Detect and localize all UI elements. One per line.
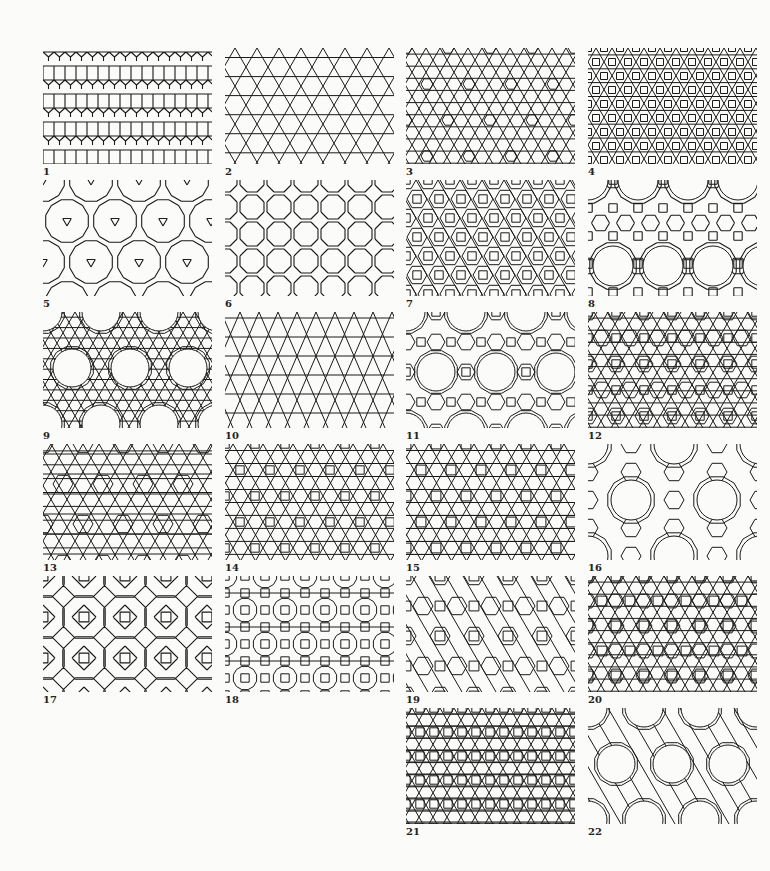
- dodecagon-hole: [82, 405, 120, 428]
- tiling-pattern-rhombitrihexagonal-variant: [43, 444, 212, 560]
- tiling-pattern-trihexagonal: [225, 48, 394, 164]
- panel-label-2: 2: [225, 167, 232, 177]
- tiling-pattern-dense-hexagram-square: [588, 576, 757, 692]
- tiling-pattern-truncated-hexagonal: [43, 180, 212, 296]
- dodecagon-hole: [654, 444, 694, 464]
- tiling-pattern-octagon-star-square: [43, 576, 212, 692]
- tiling-panel-16: [588, 444, 757, 560]
- dodecagon-hole: [681, 708, 719, 727]
- panel-label-10: 10: [225, 431, 239, 441]
- tiling-pattern-dense-square-triangle-hex: [588, 312, 757, 428]
- tiling-lines: [406, 48, 575, 164]
- tiling-pattern-triangle-hexagon-2uniform: [406, 48, 575, 164]
- tiling-pattern-hexagon-square-triangle-rows: [406, 576, 575, 692]
- dodecagon-hole: [507, 312, 545, 331]
- dodecagon-hole: [597, 745, 635, 783]
- dodecagon-hole: [709, 745, 747, 783]
- panel-label-9: 9: [43, 431, 50, 441]
- tiling-lines: [406, 576, 575, 692]
- tiling-panel-4: [588, 48, 757, 164]
- tiling-lines: [43, 52, 212, 164]
- tiling-lines: [43, 444, 212, 560]
- dodecagon-hole: [169, 349, 207, 387]
- tiling-panel-13: [43, 444, 212, 560]
- panel-label-5: 5: [43, 299, 50, 309]
- dodecagon-hole: [140, 312, 178, 331]
- tiling-lines: [225, 180, 394, 296]
- panel-label-17: 17: [43, 695, 57, 705]
- tiling-pattern-dodecagon-hexagram-square: [588, 444, 757, 560]
- tiling-pattern-dodecagon-hexagram: [43, 312, 212, 428]
- tiling-pattern-snub-square-variant: [588, 48, 757, 164]
- tiling-panel-7: [406, 180, 575, 296]
- panel-label-19: 19: [406, 695, 420, 705]
- panel-label-15: 15: [406, 563, 420, 573]
- dodecagon-hole: [140, 405, 178, 428]
- dodecagon-hole: [697, 480, 737, 520]
- tiling-panel-10: [225, 312, 394, 428]
- tiling-panel-21: [406, 708, 575, 824]
- panel-label-4: 4: [588, 167, 595, 177]
- tiling-panel-5: [43, 180, 212, 296]
- tiling-lines: [588, 312, 757, 428]
- panel-label-8: 8: [588, 299, 595, 309]
- tiling-panel-19: [406, 576, 575, 692]
- panel-label-3: 3: [406, 167, 413, 177]
- tiling-pattern-hexagram-square-dense: [406, 444, 575, 560]
- tiling-lines: [406, 180, 575, 296]
- tiling-panel-18: [225, 576, 394, 692]
- tiling-panel-8: [588, 180, 757, 296]
- dodecagon-hole: [198, 405, 212, 428]
- dodecagon-hole: [593, 246, 633, 286]
- dodecagon-hole: [643, 246, 683, 286]
- dodecagon-hole: [653, 745, 691, 783]
- tiling-panel-9: [43, 312, 212, 428]
- dodecagon-hole: [625, 708, 663, 727]
- tiling-pattern-truncated-square: [225, 180, 394, 296]
- dodecagon-hole: [743, 246, 757, 286]
- tiling-panel-12: [588, 312, 757, 428]
- dodecagon-hole: [611, 480, 651, 520]
- dodecagon-hole: [654, 536, 694, 560]
- panel-label-18: 18: [225, 695, 239, 705]
- tiling-pattern-square-hexagon-triangle-dense: [406, 180, 575, 296]
- tiling-lines: [406, 708, 575, 824]
- tiling-panel-11: [406, 312, 575, 428]
- dodecagon-hole: [111, 349, 149, 387]
- tiling-pattern-dodecagon-square-triangle: [406, 312, 575, 428]
- tiling-lines: [225, 444, 394, 560]
- tiling-panel-20: [588, 576, 757, 692]
- tiling-pattern-square-hexagon-rosette: [225, 576, 394, 692]
- dodecagon-hole: [198, 312, 212, 331]
- tiling-pattern-square-triangle-grid: [406, 708, 575, 824]
- tiling-lines: [406, 444, 575, 560]
- panel-label-12: 12: [588, 431, 602, 441]
- dodecagon-hole: [681, 801, 719, 824]
- tiling-lines: [43, 576, 212, 692]
- tiling-panel-3: [406, 48, 575, 164]
- dodecagon-hole: [82, 312, 120, 331]
- tiling-panel-17: [43, 576, 212, 692]
- panel-label-16: 16: [588, 563, 602, 573]
- panel-label-6: 6: [225, 299, 232, 309]
- tiling-pattern-rhombic-triangle-strip: [225, 312, 394, 428]
- dodecagon-hole: [668, 180, 708, 200]
- tiling-lines: [225, 312, 394, 428]
- tiling-lines: [225, 48, 394, 164]
- dodecagon-hole: [718, 180, 757, 200]
- tiling-panel-6: [225, 180, 394, 296]
- tiling-pattern-dodecagon-ring: [588, 708, 757, 824]
- panel-label-7: 7: [406, 299, 413, 309]
- panel-label-21: 21: [406, 827, 420, 837]
- tiling-panel-15: [406, 444, 575, 560]
- tiling-panel-2: [225, 48, 394, 164]
- dodecagon-hole: [625, 801, 663, 824]
- dodecagon-hole: [693, 246, 733, 286]
- panel-label-13: 13: [43, 563, 57, 573]
- dodecagon-hole: [537, 353, 575, 391]
- dodecagon-hole: [618, 180, 658, 200]
- dodecagon-hole: [588, 708, 607, 727]
- tiling-panel-1: [43, 48, 212, 164]
- dodecagon-hole: [447, 312, 485, 331]
- tiling-lines: [588, 576, 757, 692]
